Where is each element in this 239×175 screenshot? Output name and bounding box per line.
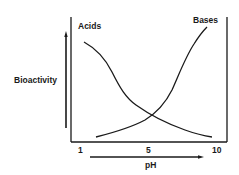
y-axis-arrow [64, 31, 67, 128]
series-label-acids: Acids [78, 21, 101, 31]
x-axis-arrow [90, 155, 204, 158]
series-label-bases: Bases [193, 15, 218, 25]
bioactivity-ph-chart: Bioactivity Acids Bases 1 5 10 pH [0, 0, 239, 175]
acids-curve [84, 42, 212, 137]
x-tick-5: 5 [146, 145, 151, 155]
plot-frame [71, 17, 227, 142]
bases-curve [96, 27, 207, 137]
x-tick-1: 1 [78, 145, 83, 155]
arrow-right-icon [198, 155, 204, 158]
y-axis-label: Bioactivity [14, 75, 57, 85]
arrow-up-icon [64, 31, 67, 37]
x-tick-10: 10 [212, 145, 222, 155]
x-axis-label: pH [145, 160, 156, 170]
